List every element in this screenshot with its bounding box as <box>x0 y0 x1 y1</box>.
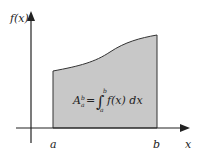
upper-limit-label: b <box>153 138 160 151</box>
area-region <box>53 35 157 128</box>
y-axis-label: f(x) <box>9 12 29 25</box>
svg-text:a: a <box>100 106 104 113</box>
x-axis-arrow-icon <box>180 124 190 132</box>
svg-text:f(x) dx: f(x) dx <box>106 94 143 107</box>
svg-text:b: b <box>81 94 85 101</box>
integral-diagram: f(x) x a b A b a = ∫ b a f(x) dx <box>0 0 204 153</box>
lower-limit-label: a <box>50 138 57 151</box>
x-axis-label: x <box>185 138 192 151</box>
svg-text:b: b <box>103 87 107 94</box>
svg-text:=: = <box>86 94 95 107</box>
svg-text:a: a <box>81 101 85 108</box>
svg-text:A: A <box>72 94 81 107</box>
